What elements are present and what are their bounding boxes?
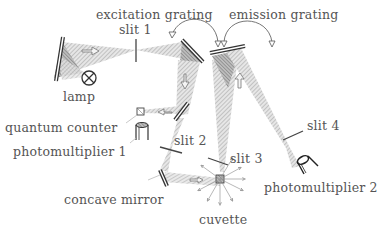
quantum-counter: [137, 108, 144, 115]
label-lamp: lamp: [63, 91, 95, 104]
label-slit1: slit 1: [119, 24, 152, 37]
beam-emission-to-slit4: [225, 48, 290, 148]
label-excitation-grating: excitation grating: [96, 9, 213, 22]
label-photomultiplier1: photomultiplier 1: [13, 146, 127, 159]
label-photomultiplier2: photomultiplier 2: [264, 182, 378, 195]
label-slit4: slit 4: [307, 120, 340, 133]
label-quantum-counter: quantum counter: [5, 122, 117, 135]
label-cuvette: cuvette: [199, 214, 247, 227]
label-emission-grating: emission grating: [229, 9, 338, 22]
slit4-line: [283, 131, 303, 140]
beam-slit2-to-concave: [160, 147, 172, 172]
label-slit3: slit 3: [230, 153, 263, 166]
emission-rotation-arrow-icon: [224, 21, 272, 42]
label-slit2: slit 2: [174, 135, 207, 148]
lamp-icon: [82, 71, 96, 85]
excitation-rotation-arrow-icon: [172, 19, 218, 42]
photomultiplier2-icon: [296, 154, 318, 174]
beam-grating-dark: [180, 42, 200, 62]
beam-slit4-to-pmt2: [286, 148, 300, 168]
label-concave-mirror: concave mirror: [64, 194, 164, 207]
photomultiplier1-icon: [136, 123, 148, 141]
